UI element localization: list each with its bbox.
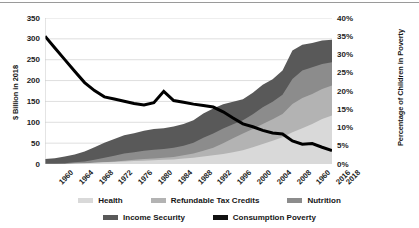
legend-item-refundable-tax-credits[interactable]: Refundable Tax Credits [151, 196, 260, 205]
y-axis-left-tick: 100 [14, 118, 40, 127]
y-axis-left-tick: 200 [14, 76, 40, 85]
legend-item-health[interactable]: Health [78, 196, 122, 205]
x-axis-tick: 1996 [235, 168, 253, 186]
legend-item-consumption-poverty[interactable]: Consumption Poverty [213, 213, 316, 222]
legend-label: Income Security [123, 213, 185, 222]
x-axis-tick: 1980 [156, 168, 174, 186]
legend-label: Health [98, 196, 122, 205]
y-axis-left-tick: 50 [14, 139, 40, 148]
x-axis-tick: 1984 [176, 168, 194, 186]
x-axis-tick: 1972 [116, 168, 134, 186]
legend-swatch-icon [287, 198, 302, 203]
legend-swatch-icon [78, 198, 93, 203]
y-axis-left-tick: 250 [14, 55, 40, 64]
x-axis-tick: 1988 [195, 168, 213, 186]
y-axis-right-title: Percentage of Children in Poverty [396, 21, 405, 155]
plot-area [45, 18, 332, 164]
chart-container: $ Billion in 2018 Percentage of Children… [0, 0, 419, 228]
legend-item-nutrition[interactable]: Nutrition [287, 196, 340, 205]
x-axis-tick: 1960 [314, 168, 332, 186]
x-axis-tick: 2004 [275, 168, 293, 186]
y-axis-right-tick: 0% [337, 160, 363, 169]
x-axis-tick: 1960 [57, 168, 75, 186]
legend-label: Refundable Tax Credits [171, 196, 260, 205]
y-axis-right-tick: 25% [337, 68, 363, 77]
legend-label: Nutrition [307, 196, 340, 205]
y-axis-left-tick: 150 [14, 97, 40, 106]
legend-item-income-security[interactable]: Income Security [103, 213, 185, 222]
top-divider [0, 2, 419, 3]
x-axis-tick: 2000 [255, 168, 273, 186]
y-axis-right-tick: 10% [337, 123, 363, 132]
y-axis-left-tick: 0 [14, 160, 40, 169]
x-axis-tick: 1976 [136, 168, 154, 186]
y-axis-right-tick: 20% [337, 87, 363, 96]
y-axis-right-tick: 35% [337, 32, 363, 41]
y-axis-right-tick: 30% [337, 50, 363, 59]
legend-label: Consumption Poverty [233, 213, 316, 222]
x-axis-tick: 1964 [77, 168, 95, 186]
x-axis-tick: 1968 [97, 168, 115, 186]
y-axis-left-tick: 300 [14, 34, 40, 43]
y-axis-right-tick: 5% [337, 141, 363, 150]
legend-row: Income SecurityConsumption Poverty [0, 209, 419, 226]
legend-swatch-icon [103, 215, 118, 220]
y-axis-left-tick: 350 [14, 14, 40, 23]
legend-swatch-icon [213, 215, 228, 220]
y-axis-right-tick: 15% [337, 105, 363, 114]
x-axis-tick: 1992 [215, 168, 233, 186]
legend-row: HealthRefundable Tax CreditsNutrition [0, 192, 419, 209]
legend-swatch-icon [151, 198, 166, 203]
x-axis-tick: 2008 [294, 168, 312, 186]
y-axis-right-tick: 40% [337, 14, 363, 23]
chart-legend: HealthRefundable Tax CreditsNutritionInc… [0, 192, 419, 226]
